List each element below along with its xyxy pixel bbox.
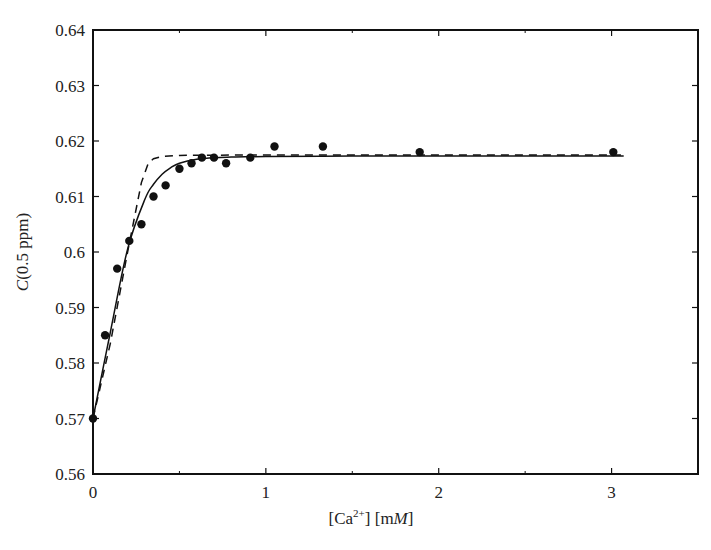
y-tick-label: 0.64	[55, 21, 85, 40]
x-tick-label: 1	[262, 483, 271, 502]
x-axis-label: [Ca2+] [mM]	[329, 507, 414, 528]
y-tick-label: 0.57	[55, 410, 85, 429]
y-tick-label: 0.63	[55, 77, 85, 96]
chart: 0.560.570.580.590.60.610.620.630.64 0123…	[0, 0, 711, 550]
fit-solid-line	[93, 156, 624, 419]
data-point	[319, 142, 327, 150]
x-tick-label: 0	[89, 483, 98, 502]
data-point	[210, 153, 218, 161]
data-point	[198, 153, 206, 161]
x-tick-label: 3	[607, 483, 616, 502]
data-point	[222, 159, 230, 167]
data-point	[270, 142, 278, 150]
fit-dashed-line	[93, 155, 624, 419]
data-point	[246, 153, 254, 161]
data-point	[416, 148, 424, 156]
data-point	[101, 331, 109, 339]
y-tick-label: 0.6	[64, 243, 85, 262]
y-tick-label: 0.62	[55, 132, 85, 151]
x-tick-label: 2	[434, 483, 443, 502]
data-point	[161, 181, 169, 189]
axis-ticks	[93, 30, 698, 474]
data-points	[89, 142, 618, 422]
y-tick-label: 0.56	[55, 465, 85, 484]
y-tick-label: 0.61	[55, 188, 85, 207]
data-point	[609, 148, 617, 156]
y-tick-label: 0.59	[55, 299, 85, 318]
data-point	[113, 264, 121, 272]
y-tick-label: 0.58	[55, 354, 85, 373]
x-tick-labels: 0123	[89, 483, 616, 502]
y-tick-labels: 0.560.570.580.590.60.610.620.630.64	[55, 21, 85, 484]
y-axis-label: C(0.5 ppm)	[13, 213, 32, 291]
data-point	[187, 159, 195, 167]
data-point	[149, 192, 157, 200]
plot-frame	[93, 30, 698, 474]
data-point	[125, 237, 133, 245]
data-point	[137, 220, 145, 228]
data-point	[175, 165, 183, 173]
